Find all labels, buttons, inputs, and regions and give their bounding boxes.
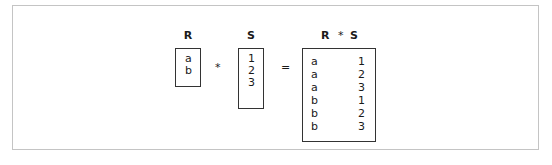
result-label-s: S bbox=[350, 29, 358, 42]
result-row-col1: a bbox=[311, 82, 318, 95]
relation-s-label: S bbox=[239, 29, 263, 42]
result-row-col2: 2 bbox=[358, 108, 365, 121]
diagram-frame bbox=[12, 5, 539, 150]
product-operator: * bbox=[215, 61, 221, 74]
relation-r-label: R bbox=[176, 29, 200, 42]
relation-s-box: 1 2 3 bbox=[238, 48, 264, 109]
result-row-col1: a bbox=[311, 69, 318, 82]
relation-r-value: b bbox=[185, 65, 192, 78]
result-label-operator: * bbox=[338, 29, 344, 42]
result-row-col1: b bbox=[311, 95, 318, 108]
result-row-col2: 2 bbox=[358, 69, 365, 82]
result-row-col1: b bbox=[311, 121, 318, 134]
result-row-col1: a bbox=[311, 56, 318, 69]
relation-r-box: a b bbox=[175, 48, 201, 87]
result-box: a 1 a 2 a 3 b 1 b 2 b 3 bbox=[302, 48, 376, 142]
result-row-col2: 1 bbox=[358, 95, 365, 108]
result-row-col2: 1 bbox=[358, 56, 365, 69]
equals-operator: = bbox=[281, 61, 290, 74]
result-row-col1: b bbox=[311, 108, 318, 121]
result-row-col2: 3 bbox=[358, 121, 365, 134]
result-row-col2: 3 bbox=[358, 82, 365, 95]
result-label-r: R bbox=[321, 29, 329, 42]
relation-s-value: 3 bbox=[248, 77, 255, 90]
